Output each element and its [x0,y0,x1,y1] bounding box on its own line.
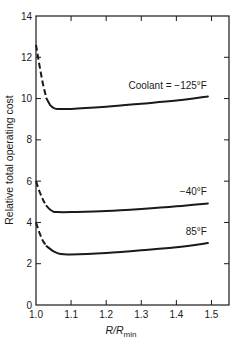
x-axis-title-subscript: min [124,330,137,339]
y-tick-labels: 02468101214 [21,11,33,311]
series-dashed-segment [36,45,47,99]
series-label: Coolant = −125°F [128,80,207,91]
series-label: −40°F [180,186,207,197]
axis-ticks [36,16,229,305]
x-axis-title-main: R/R [106,324,125,336]
series-line [47,243,208,254]
y-tick-label: 6 [26,176,32,187]
series-dashed-segment [36,222,47,246]
y-tick-label: 2 [26,258,32,269]
x-axis-title: R/Rmin [106,324,137,339]
chart: 1.01.11.21.31.41.5 02468101214 Coolant =… [0,0,240,342]
series-dashed-segment [36,181,47,206]
y-tick-label: 0 [26,300,32,311]
plot-border [36,16,229,305]
y-tick-label: 4 [26,217,32,228]
series-label: 85°F [186,226,207,237]
y-tick-label: 12 [21,52,33,63]
series-line [47,203,208,212]
y-axis-title: Relative total operating cost [3,95,15,225]
x-tick-labels: 1.01.11.21.31.41.5 [29,309,219,320]
y-tick-label: 14 [21,11,33,22]
x-tick-label: 1.4 [169,309,183,320]
series-line [47,97,208,110]
x-tick-label: 1.1 [64,309,78,320]
x-tick-label: 1.2 [99,309,113,320]
x-tick-label: 1.3 [134,309,148,320]
plot-frame [36,16,229,305]
x-tick-label: 1.5 [205,309,219,320]
x-tick-label: 1.0 [29,309,43,320]
y-tick-label: 8 [26,134,32,145]
series-curves [36,45,208,255]
y-tick-label: 10 [21,93,33,104]
